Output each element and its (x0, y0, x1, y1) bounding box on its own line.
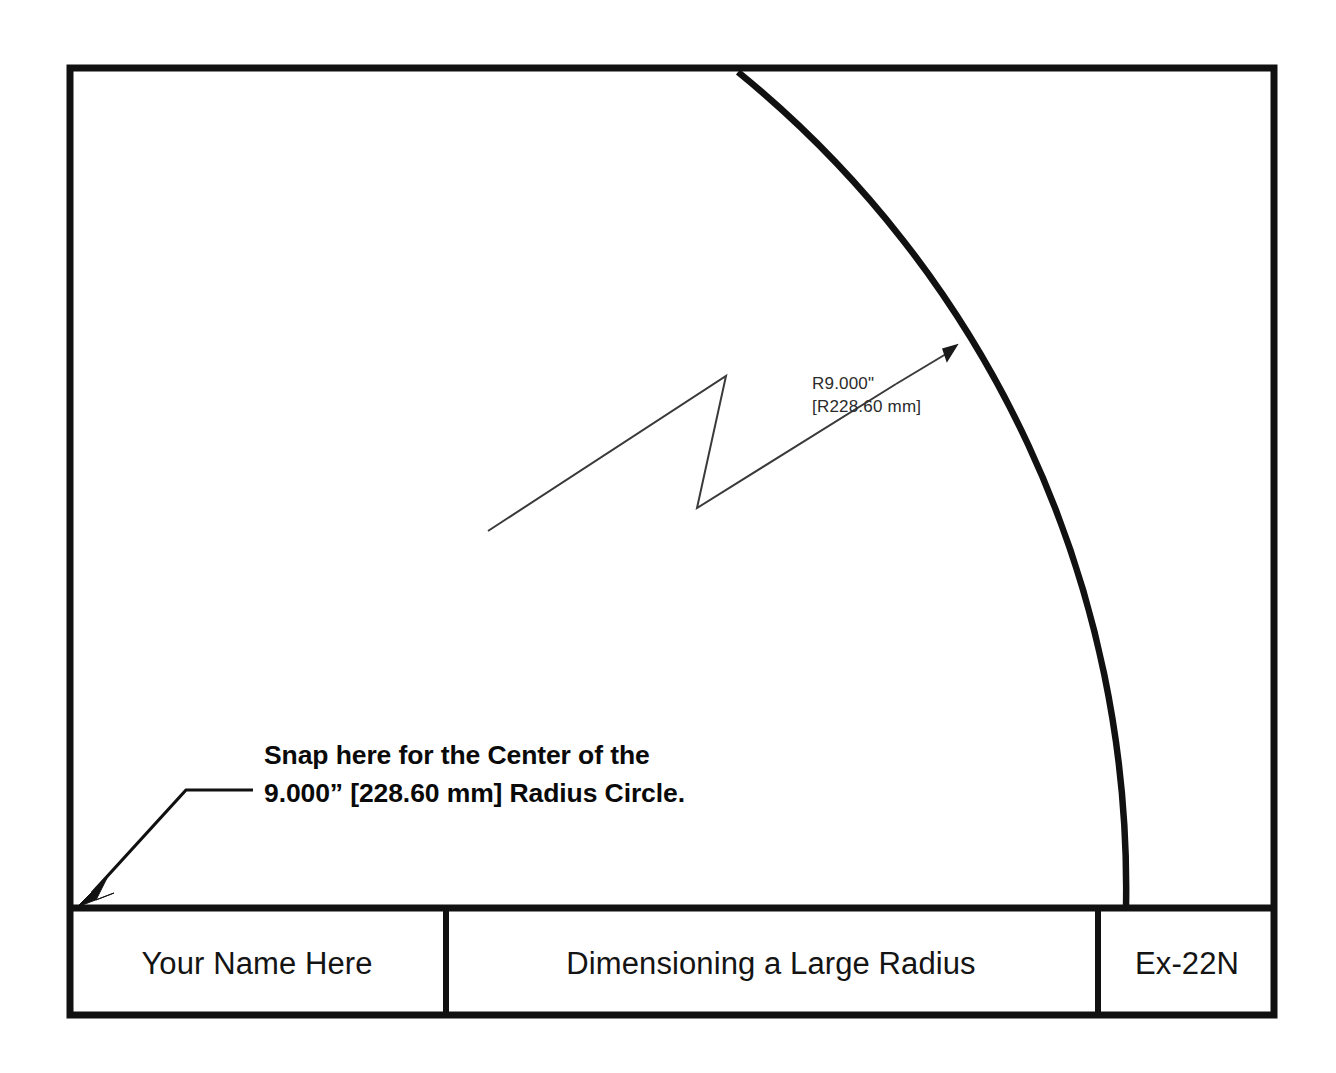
title-block-number: Ex-22N (1104, 920, 1270, 1008)
large-radius-arc (738, 72, 1126, 908)
title-block-name: Your Name Here (74, 920, 440, 1008)
drawing-canvas (0, 0, 1336, 1073)
drawing-sheet: R9.000" [R228.60 mm] Snap here for the C… (0, 0, 1336, 1073)
radius-dimension-label: R9.000" [R228.60 mm] (812, 372, 921, 418)
dimension-arrowhead (943, 345, 957, 361)
snap-note-line-2: 9.000” [228.60 mm] Radius Circle. (264, 774, 685, 812)
note-leader-line (92, 790, 253, 893)
note-arrowhead (77, 876, 114, 907)
title-block-title: Dimensioning a Large Radius (452, 920, 1090, 1008)
radius-dimension-inch: R9.000" (812, 372, 921, 395)
radius-dimension-mm: [R228.60 mm] (812, 395, 921, 418)
snap-note-line-1: Snap here for the Center of the (264, 736, 685, 774)
snap-note: Snap here for the Center of the 9.000” [… (264, 736, 685, 812)
sheet-border (70, 68, 1274, 1015)
